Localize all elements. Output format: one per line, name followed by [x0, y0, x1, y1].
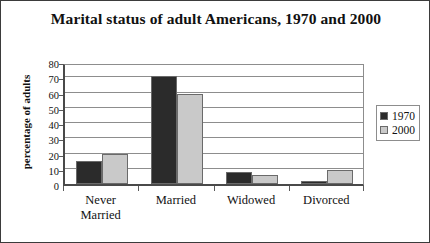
y-axis-tick-label: 40 [33, 120, 59, 131]
x-axis-label-line: Never [63, 193, 138, 208]
gridline [65, 137, 363, 138]
x-axis-label-line: Divorced [289, 193, 364, 208]
chart-title: Marital status of adult Americans, 1970 … [1, 10, 430, 28]
gridline [65, 122, 363, 123]
gridline [65, 76, 363, 77]
x-axis-label-divorced: Divorced [289, 193, 364, 208]
legend-label-1970: 1970 [392, 110, 415, 122]
x-axis-label-widowed: Widowed [214, 193, 289, 208]
legend-swatch-1970 [380, 112, 388, 120]
legend-item-1970: 1970 [380, 109, 415, 123]
x-axis-label-line: Married [138, 193, 213, 208]
x-axis-label-never-married: NeverMarried [63, 193, 138, 223]
bar-2000-never-married [102, 154, 128, 185]
y-axis-tick-label: 80 [33, 59, 59, 70]
bar-1970-divorced [301, 181, 327, 184]
x-axis-tick-mark [214, 186, 215, 191]
y-axis-tick-label: 50 [33, 104, 59, 115]
chart-legend: 19702000 [376, 105, 420, 141]
x-axis-tick-mark [289, 186, 290, 191]
bar-2000-widowed [252, 175, 278, 184]
gridline [65, 107, 363, 108]
legend-item-2000: 2000 [380, 123, 415, 137]
x-axis-tick-mark [138, 186, 139, 191]
x-axis-category-labels: NeverMarriedMarriedWidowedDivorced [63, 193, 364, 237]
y-axis-tick-label: 20 [33, 150, 59, 161]
y-axis-tick-label: 60 [33, 89, 59, 100]
y-axis-tick-label: 70 [33, 74, 59, 85]
chart-figure: Marital status of adult Americans, 1970 … [0, 0, 430, 243]
x-axis-label-line: Married [63, 208, 138, 223]
y-axis-tick-label: 30 [33, 135, 59, 146]
gridline [65, 92, 363, 93]
x-axis-label-line: Widowed [214, 193, 289, 208]
y-axis-tick-labels: 80706050403020100 [31, 64, 59, 186]
plot-area [63, 64, 364, 186]
bar-2000-married [177, 94, 203, 184]
x-axis-label-married: Married [138, 193, 213, 208]
x-axis-tick-mark [63, 186, 64, 191]
bar-2000-divorced [327, 170, 353, 184]
legend-label-2000: 2000 [392, 124, 415, 136]
legend-swatch-2000 [380, 126, 388, 134]
bar-1970-married [151, 76, 177, 184]
y-axis-tick-label: 10 [33, 165, 59, 176]
y-axis-tick-label: 0 [33, 181, 59, 192]
bar-1970-widowed [226, 172, 252, 184]
x-axis-tick-marks [63, 186, 364, 192]
x-axis-tick-mark [363, 186, 364, 191]
bar-1970-never-married [76, 161, 102, 184]
